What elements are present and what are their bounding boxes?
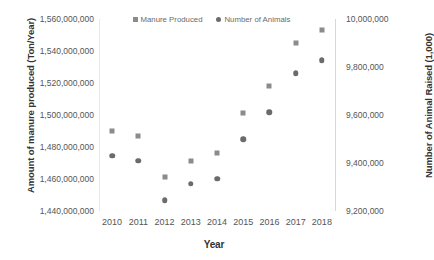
data-point <box>109 153 115 159</box>
data-point <box>293 70 299 76</box>
y-axis-right-tick: 9,800,000 <box>346 63 384 72</box>
data-point <box>162 198 168 204</box>
x-axis-tick-labels: 201020112012201320142015201620172018 <box>0 217 428 231</box>
y-axis-right-tick: 9,200,000 <box>346 207 384 216</box>
x-axis-tick: 2011 <box>129 217 148 227</box>
data-point <box>319 28 324 33</box>
data-point <box>319 57 325 63</box>
data-point <box>241 111 246 116</box>
x-axis-tick: 2015 <box>233 217 253 227</box>
data-point <box>188 159 193 164</box>
y-axis-left-tick: 1,520,000,000 <box>40 79 94 88</box>
x-axis-tick: 2017 <box>286 217 306 227</box>
legend-item-label: Manure Produced <box>141 15 203 24</box>
data-point <box>267 109 273 115</box>
data-point <box>136 158 142 164</box>
y-axis-left-tick: 1,480,000,000 <box>40 143 94 152</box>
x-axis-tick: 2010 <box>102 217 122 227</box>
data-point <box>293 41 298 46</box>
data-point <box>162 175 167 180</box>
plot-area <box>99 19 335 211</box>
legend-item[interactable]: Manure Produced <box>133 15 202 24</box>
data-point <box>110 129 115 134</box>
y-axis-right-line <box>335 19 336 211</box>
y-axis-right-tick: 9,600,000 <box>346 111 384 120</box>
data-point <box>240 137 246 143</box>
legend-item-label: Number of Animals <box>224 15 290 24</box>
x-axis-tick: 2013 <box>181 217 201 227</box>
legend-circle-icon <box>216 17 221 22</box>
data-point <box>188 181 194 187</box>
data-point <box>215 151 220 156</box>
chart-legend: Manure ProducedNumber of Animals <box>133 15 290 24</box>
data-point <box>136 133 141 138</box>
y-axis-left-tick: 1,560,000,000 <box>40 15 94 24</box>
legend-square-icon <box>133 17 138 22</box>
x-axis-tick: 2016 <box>259 217 279 227</box>
data-point <box>267 84 272 89</box>
y-axis-right-tick: 10,000,000 <box>346 15 389 24</box>
y-axis-right-tick: 9,400,000 <box>346 159 384 168</box>
x-axis-tick: 2018 <box>312 217 332 227</box>
y-axis-left-tick: 1,460,000,000 <box>40 175 94 184</box>
y-axis-left-tick: 1,500,000,000 <box>40 111 94 120</box>
legend-item[interactable]: Number of Animals <box>216 15 290 24</box>
x-axis-tick: 2012 <box>155 217 175 227</box>
y-axis-left-tick: 1,540,000,000 <box>40 47 94 56</box>
data-point <box>214 176 220 182</box>
x-axis-tick: 2014 <box>207 217 227 227</box>
y-axis-left-tick: 1,440,000,000 <box>40 207 94 216</box>
